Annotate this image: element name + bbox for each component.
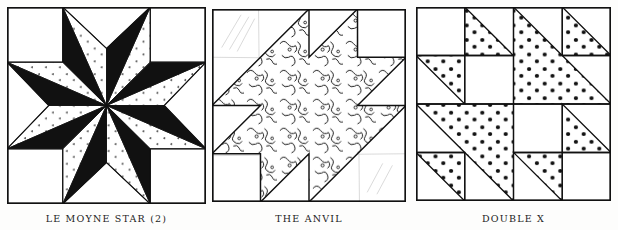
- label-le-moyne-star: LE MOYNE STAR (2): [7, 213, 206, 224]
- label-double-x: DOUBLE X: [416, 213, 611, 224]
- double-x-drawing: [416, 7, 611, 201]
- quilt-block-le-moyne-star: [7, 7, 206, 204]
- quilt-block-the-anvil: [212, 9, 406, 202]
- le-moyne-star-drawing: [7, 7, 206, 204]
- the-anvil-drawing: [212, 9, 406, 202]
- quilt-block-double-x: [416, 7, 611, 201]
- label-the-anvil: THE ANVIL: [212, 213, 406, 224]
